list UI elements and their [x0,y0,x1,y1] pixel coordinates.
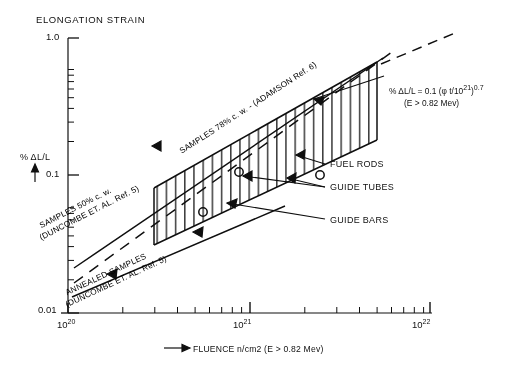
y-tick-label-1p0: 1.0 [46,31,59,42]
equation-exponent-0p7: 0.7 [474,84,484,91]
x-axis-label-text: FLUENCE n/cm2 (E > 0.82 Mev) [193,344,324,354]
x-axis-label: FLUENCE n/cm2 (E > 0.82 Mev) [193,344,324,354]
equation-exponent-21: 21 [463,84,471,91]
x-tick-mantissa: 10 [412,319,423,330]
y-tick-label-0p1: 0.1 [46,168,59,179]
y-tick-label-0p01: 0.01 [38,304,57,315]
x-tick-exponent: 21 [244,318,252,325]
y-axis-label: % ΔL/L [20,152,50,162]
x-tick-exponent: 20 [68,318,76,325]
x-tick-label-1e21: 1021 [233,318,251,330]
page-title: ELONGATION STRAIN [36,14,145,25]
y-axis-major-ticks [61,38,79,313]
component-label-fuel-rods: FUEL RODS [330,159,384,169]
x-tick-label-1e20: 1020 [57,318,75,330]
x-axis-minor-ticks [123,307,424,313]
component-label-guide-bars: GUIDE BARS [330,215,389,225]
x-tick-mantissa: 10 [57,319,68,330]
hatched-scatter-band [150,55,382,255]
x-tick-exponent: 22 [423,318,431,325]
equation-annotation-line2: (E > 0.82 Mev) [404,98,459,108]
x-tick-mantissa: 10 [233,319,244,330]
x-tick-label-1e22: 1022 [412,318,430,330]
component-label-guide-tubes: GUIDE TUBES [330,182,394,192]
series-design-correlation-extension [381,33,455,64]
equation-body: % ΔL/L = 0.1 (φ t/10 [389,86,463,96]
elongation-strain-chart [0,0,514,373]
equation-annotation-line1: % ΔL/L = 0.1 (φ t/1021)0.7 [389,84,484,96]
